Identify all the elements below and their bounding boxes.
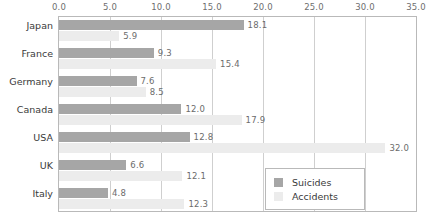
- chart-legend: Suicides Accidents: [265, 168, 365, 210]
- category-label: France: [21, 47, 53, 58]
- bar-accidents-uk: [59, 171, 182, 181]
- x-axis-tick-label: 15.0: [202, 2, 222, 12]
- x-axis-top: 0.05.010.015.020.025.030.035.0: [58, 0, 417, 16]
- legend-item-accidents: Accidents: [274, 189, 354, 203]
- legend-swatch-suicides: [274, 178, 283, 187]
- category-label: Canada: [17, 103, 53, 114]
- bar-suicides-uk: [59, 160, 126, 170]
- bar-value-label: 32.0: [389, 143, 409, 153]
- x-axis-tick-label: 20.0: [253, 2, 273, 12]
- bar-accidents-japan: [59, 31, 119, 41]
- bar-chart: 0.05.010.015.020.025.030.035.0 JapanFran…: [0, 0, 436, 223]
- legend-swatch-accidents: [274, 192, 283, 201]
- bar-value-label: 12.3: [188, 199, 208, 209]
- bar-accidents-usa: [59, 143, 385, 153]
- x-axis-tick-label: 5.0: [103, 2, 117, 12]
- bar-suicides-france: [59, 48, 154, 58]
- y-axis-category-labels: JapanFranceGermanyCanadaUSAUKItaly: [0, 16, 53, 212]
- bar-value-label: 15.4: [220, 59, 240, 69]
- x-axis-tick-label: 35.0: [406, 2, 426, 12]
- bar-value-label: 4.8: [112, 188, 126, 198]
- bar-suicides-germany: [59, 76, 137, 86]
- bar-suicides-japan: [59, 20, 244, 30]
- bar-suicides-usa: [59, 132, 190, 142]
- bar-accidents-germany: [59, 87, 146, 97]
- bar-value-label: 9.3: [158, 48, 172, 58]
- bar-value-label: 12.8: [194, 132, 214, 142]
- legend-label-accidents: Accidents: [292, 191, 338, 202]
- x-axis-tick-label: 10.0: [151, 2, 171, 12]
- x-axis-tick-label: 25.0: [304, 2, 324, 12]
- bar-value-label: 6.6: [130, 160, 144, 170]
- bar-accidents-france: [59, 59, 216, 69]
- bar-value-label: 12.1: [186, 171, 206, 181]
- bar-value-label: 18.1: [248, 20, 268, 30]
- bar-value-label: 7.6: [141, 76, 155, 86]
- category-label: Japan: [27, 19, 54, 30]
- category-label: Italy: [32, 187, 53, 198]
- bar-value-label: 12.0: [185, 104, 205, 114]
- bar-value-label: 8.5: [150, 87, 164, 97]
- category-label: Germany: [9, 75, 53, 86]
- category-label: USA: [33, 131, 53, 142]
- bar-accidents-italy: [59, 199, 184, 209]
- bar-value-label: 17.9: [246, 115, 266, 125]
- bar-accidents-canada: [59, 115, 242, 125]
- category-label: UK: [40, 159, 53, 170]
- x-axis-tick-label: 0.0: [52, 2, 66, 12]
- bar-suicides-italy: [59, 188, 108, 198]
- bar-value-label: 5.9: [123, 31, 137, 41]
- legend-item-suicides: Suicides: [274, 175, 354, 189]
- legend-label-suicides: Suicides: [292, 177, 331, 188]
- bar-suicides-canada: [59, 104, 181, 114]
- x-axis-tick-label: 30.0: [355, 2, 375, 12]
